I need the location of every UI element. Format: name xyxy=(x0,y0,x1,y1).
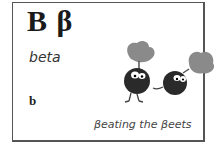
letter-name: beta xyxy=(29,49,61,65)
letter-pair-heading: B β xyxy=(27,4,73,38)
flashcard: B β beta b βeating the βeets xyxy=(12,2,205,142)
beets-illustration xyxy=(109,39,216,113)
latin-equivalent: b xyxy=(29,93,36,109)
beet-right-icon xyxy=(153,52,214,95)
caption: βeating the βeets xyxy=(94,118,192,131)
beet-left-icon xyxy=(124,41,155,102)
